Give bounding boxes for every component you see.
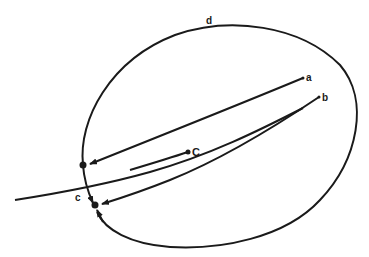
- label-a: a: [306, 72, 312, 83]
- upper-dot: [80, 162, 87, 169]
- point-b-dot: [318, 96, 321, 99]
- loop-left-segment: [83, 165, 93, 203]
- point-C-dot: [186, 150, 191, 155]
- label-C: C: [192, 146, 200, 158]
- point-a-dot: [302, 77, 305, 80]
- label-b: b: [322, 92, 328, 103]
- orbit-diagram: d a b C c: [0, 0, 369, 257]
- lower-dot: [92, 202, 99, 209]
- line-C: [130, 152, 188, 170]
- loop-arrow-segment: [97, 210, 103, 222]
- label-c: c: [75, 192, 81, 203]
- closed-curve-d: [82, 25, 356, 247]
- label-d: d: [206, 15, 212, 26]
- open-curve-c: [15, 108, 303, 200]
